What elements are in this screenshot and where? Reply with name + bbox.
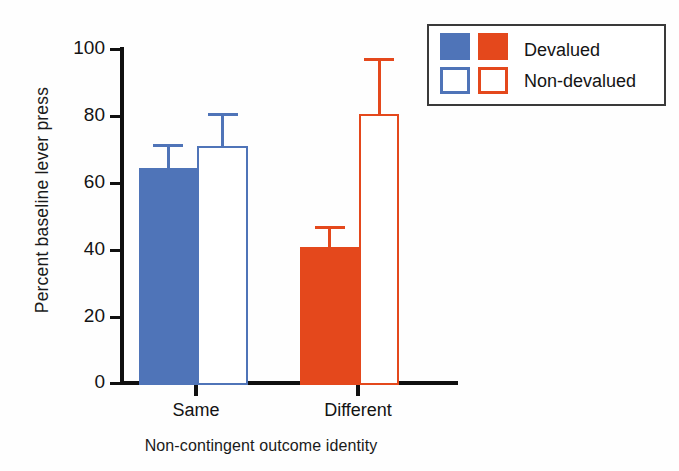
legend-swatch-blue-open [440, 67, 470, 94]
bar-different-nondevalued [359, 114, 399, 385]
y-tick-80: 80 [110, 115, 121, 118]
chart-figure: Percent baseline lever press 100 80 60 4… [0, 0, 679, 471]
y-tick-label-100: 100 [73, 37, 105, 59]
errorbar-same-nondevalued [197, 113, 248, 146]
plot-area: 100 80 60 40 20 0 Same Different [120, 40, 460, 385]
x-tick-label-same: Same [126, 400, 266, 421]
legend-label-devalued: Devalued [524, 40, 636, 60]
y-tick-100: 100 [110, 48, 121, 51]
legend-label-nondevalued: Non-devalued [524, 71, 636, 91]
legend-swatch-blue-filled [440, 33, 470, 60]
bar-same-devalued [139, 168, 197, 385]
legend-label-list: Devalued Non-devalued [524, 40, 636, 91]
errorbar-cap [364, 58, 394, 61]
y-tick-60: 60 [110, 182, 121, 185]
y-tick-label-60: 60 [84, 171, 105, 193]
y-tick-0: 0 [110, 382, 121, 385]
legend-swatch-red-open [478, 67, 508, 94]
errorbar-cap [315, 226, 345, 229]
y-tick-label-80: 80 [84, 104, 105, 126]
errorbar-cap [208, 113, 238, 116]
legend-swatch-grid [440, 33, 512, 97]
x-tick-same [194, 385, 198, 396]
errorbar-stem [328, 226, 331, 248]
y-tick-label-20: 20 [84, 305, 105, 327]
bar-different-devalued [300, 247, 359, 385]
x-axis-title: Non-contingent outcome identity [96, 437, 426, 455]
y-tick-label-0: 0 [94, 371, 105, 393]
y-tick-20: 20 [110, 316, 121, 319]
legend-swatch-red-filled [478, 33, 508, 60]
x-tick-label-different: Different [288, 400, 428, 421]
errorbar-cap [153, 144, 183, 147]
y-axis-title: Percent baseline lever press [28, 30, 56, 370]
errorbar-same-devalued [139, 144, 197, 170]
bar-same-nondevalued [197, 146, 248, 385]
errorbar-stem [221, 113, 224, 146]
y-tick-label-40: 40 [84, 238, 105, 260]
x-tick-different [356, 385, 360, 396]
chart-legend: Devalued Non-devalued [427, 24, 666, 106]
errorbar-stem [378, 58, 381, 115]
errorbar-different-nondevalued [359, 58, 399, 115]
y-axis-line [120, 47, 124, 385]
errorbar-different-devalued [300, 226, 359, 248]
y-tick-40: 40 [110, 249, 121, 252]
errorbar-stem [167, 144, 170, 170]
